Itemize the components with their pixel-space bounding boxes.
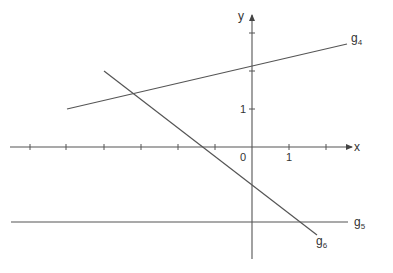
x-axis-label: x bbox=[354, 140, 360, 154]
label-g5: g5 bbox=[354, 215, 366, 231]
x-axis bbox=[10, 144, 352, 150]
x-unit-label: 1 bbox=[286, 151, 292, 163]
label-g6: g6 bbox=[316, 234, 328, 250]
y-unit-label: 1 bbox=[240, 103, 246, 115]
origin-label: 0 bbox=[240, 151, 246, 163]
label-g4: g4 bbox=[351, 31, 363, 47]
coordinate-diagram: x y 0 1 1 g4 g5 g6 bbox=[0, 0, 393, 273]
line-g4 bbox=[67, 44, 347, 109]
y-axis-label: y bbox=[238, 9, 244, 23]
